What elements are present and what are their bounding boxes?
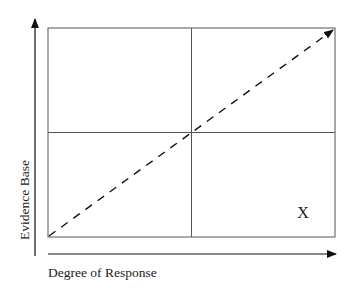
quadrant-marker-x: X — [297, 204, 309, 221]
x-axis-label: Degree of Response — [48, 265, 157, 280]
y-axis-label: Evidence Base — [17, 160, 32, 240]
quadrant-diagram: X Degree of Response Evidence Base — [0, 0, 354, 297]
